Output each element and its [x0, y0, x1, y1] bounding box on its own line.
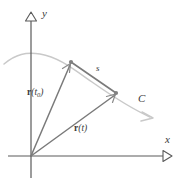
y-axis-arrowhead-icon [26, 12, 37, 21]
figure-root: y x C s r(t0) r(t) [0, 0, 180, 189]
x-axis-arrowhead-icon [163, 151, 172, 162]
curve-c-path [4, 53, 150, 117]
vector-label-r-t0: r(t0) [27, 88, 43, 98]
y-axis-label: y [42, 8, 47, 19]
point-t-marker [114, 91, 118, 95]
vector-label-r-t: r(t) [74, 124, 87, 134]
curve-label-c: C [138, 93, 145, 104]
arc-length-label-s: s [96, 64, 100, 73]
arc-length-chord-line [71, 62, 116, 93]
point-t0-marker [69, 60, 73, 64]
x-axis-label: x [165, 134, 170, 145]
